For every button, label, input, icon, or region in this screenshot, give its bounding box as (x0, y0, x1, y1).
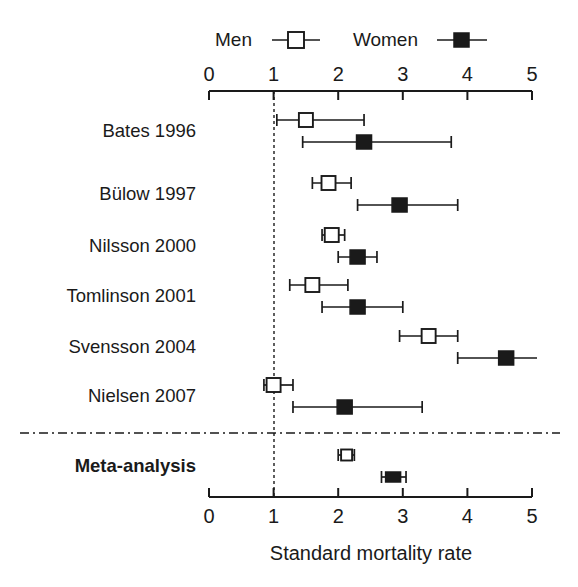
marker-men-1 (322, 176, 336, 190)
study-label-bates-1996: Bates 1996 (102, 120, 196, 141)
legend-label-women: Women (353, 29, 418, 50)
bottom-tick-label-3: 3 (397, 505, 408, 527)
top-tick-label-4: 4 (462, 63, 473, 85)
top-tick-label-5: 5 (526, 63, 537, 85)
interval-men-3 (290, 278, 348, 292)
interval-women-3 (322, 300, 403, 314)
study-label-meta-analysis: Meta-analysis (75, 455, 196, 476)
x-axis-title: Standard mortality rate (270, 542, 472, 564)
study-row: Tomlinson 2001 (66, 278, 402, 314)
study-label-nielsen-2007: Nielsen 2007 (88, 385, 196, 406)
top-axis: 012345 (203, 63, 537, 100)
bottom-axis: 012345 (203, 488, 537, 527)
study-row: Svensson 2004 (68, 329, 537, 365)
marker-women-0 (357, 135, 372, 149)
interval-women-0 (303, 135, 452, 149)
study-row: Bates 1996 (102, 113, 451, 149)
interval-women-2 (338, 250, 377, 264)
marker-men-3 (305, 278, 319, 292)
top-tick-label-3: 3 (397, 63, 408, 85)
interval-men-2 (322, 228, 345, 242)
study-label-b-low-1997: Bülow 1997 (99, 183, 196, 204)
study-label-tomlinson-2001: Tomlinson 2001 (66, 285, 196, 306)
bottom-tick-label-1: 1 (268, 505, 279, 527)
interval-women-4 (458, 351, 537, 365)
legend-label-men: Men (215, 29, 252, 50)
interval-men-5 (264, 378, 293, 392)
bottom-tick-label-5: 5 (526, 505, 537, 527)
interval-women-6 (381, 471, 406, 483)
marker-women-2 (350, 250, 365, 264)
marker-women-6 (386, 472, 401, 482)
top-tick-label-2: 2 (333, 63, 344, 85)
top-tick-label-0: 0 (203, 63, 214, 85)
bottom-tick-label-2: 2 (333, 505, 344, 527)
marker-women-1 (392, 198, 407, 212)
marker-women-4 (499, 351, 514, 365)
study-label-nilsson-2000: Nilsson 2000 (89, 235, 196, 256)
interval-men-0 (277, 113, 364, 127)
interval-men-6 (338, 449, 354, 461)
marker-men-6 (341, 450, 352, 461)
top-tick-label-1: 1 (268, 63, 279, 85)
forest-plot: Men Women 012345 Bates 1996Bülow 1997Nil… (0, 0, 578, 587)
study-row: Nilsson 2000 (89, 228, 377, 264)
marker-men-4 (422, 329, 436, 343)
marker-women-5 (337, 400, 352, 414)
legend-marker-men (272, 32, 320, 48)
study-label-svensson-2004: Svensson 2004 (68, 336, 196, 357)
marker-men-5 (267, 378, 281, 392)
chart-legend: Men Women (215, 29, 487, 50)
marker-women-3 (350, 300, 365, 314)
marker-men-0 (299, 113, 313, 127)
study-row: Nielsen 2007 (88, 378, 422, 414)
bottom-tick-label-4: 4 (462, 505, 473, 527)
interval-men-4 (400, 329, 458, 343)
interval-women-1 (358, 198, 458, 212)
interval-men-1 (312, 176, 351, 190)
marker-men-2 (325, 228, 339, 242)
study-rows: Bates 1996Bülow 1997Nilsson 2000Tomlinso… (66, 113, 537, 483)
bottom-tick-label-0: 0 (203, 505, 214, 527)
interval-women-5 (293, 400, 422, 414)
study-row: Bülow 1997 (99, 176, 457, 212)
legend-marker-women (437, 33, 487, 47)
study-row: Meta-analysis (75, 449, 406, 483)
